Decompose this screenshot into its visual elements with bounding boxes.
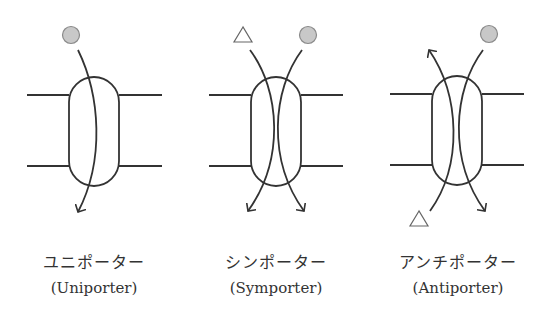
uniporter-label: ユニポーター (Uniporter) — [4, 249, 184, 297]
uniporter-label-jp: ユニポーター — [4, 249, 184, 273]
uniporter-label-en: (Uniporter) — [4, 279, 184, 297]
antiporter-panel — [390, 26, 524, 227]
symporter-panel — [209, 27, 343, 212]
symporter-label-en: (Symporter) — [186, 279, 366, 297]
arrow-down-icon — [78, 50, 96, 212]
uniporter-panel — [27, 27, 162, 213]
arrow-down-icon — [459, 50, 485, 211]
antiporter-label-jp: アンチポーター — [368, 249, 542, 273]
countertransported-triangle-icon — [410, 211, 428, 226]
symporter-label: シンポーター (Symporter) — [186, 249, 366, 297]
solute-circle-icon — [63, 27, 80, 44]
arrow-down-left-icon — [248, 50, 274, 211]
carrier-protein — [69, 77, 119, 186]
antiporter-label-en: (Antiporter) — [368, 279, 542, 297]
carrier-protein — [251, 77, 301, 186]
solute-circle-icon — [300, 27, 317, 44]
carrier-protein — [432, 76, 482, 185]
symporter-label-jp: シンポーター — [186, 249, 366, 273]
antiporter-label: アンチポーター (Antiporter) — [368, 249, 542, 297]
cotransported-triangle-icon — [234, 27, 252, 42]
arrow-down-right-icon — [278, 50, 304, 211]
solute-circle-icon — [481, 26, 498, 43]
